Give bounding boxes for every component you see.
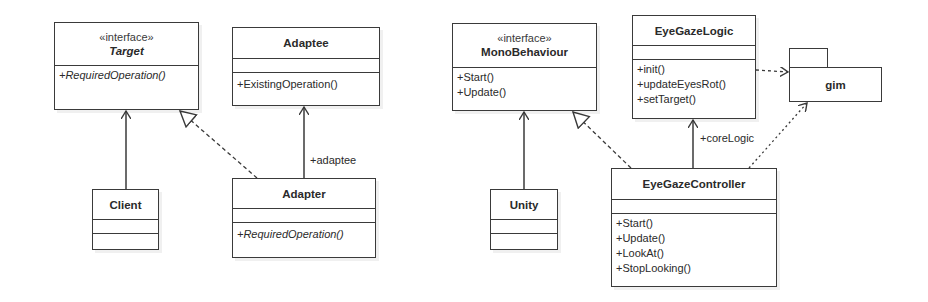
class-name: Target (55, 44, 198, 58)
operation: +Start() (457, 70, 592, 85)
operations-compartment: +ExistingOperation() (233, 73, 379, 94)
operation: +StopLooking() (616, 261, 772, 276)
stereotype-label: «interface» (55, 31, 198, 44)
class-unity[interactable]: Unity (490, 189, 558, 250)
class-eyegazelogic[interactable]: EyeGazeLogic +init() +updateEyesRot() +s… (632, 15, 756, 119)
attributes-compartment (491, 220, 557, 234)
class-header: EyeGazeController (612, 169, 776, 200)
class-header: «interface» MonoBehaviour (453, 24, 596, 68)
adapter-target-realization (180, 111, 257, 178)
uml-canvas: «interface» Target +RequiredOperation() … (0, 0, 928, 302)
operations-compartment: +Start() +Update() +LookAt() +StopLookin… (612, 214, 776, 278)
class-header: Client (93, 190, 158, 220)
class-monobehaviour[interactable]: «interface» MonoBehaviour +Start() +Upda… (452, 23, 597, 111)
operation: +Start() (616, 216, 772, 231)
class-name: Adapter (233, 187, 375, 201)
operation: +init() (637, 62, 751, 77)
class-name: Adaptee (233, 36, 379, 50)
class-header: Adaptee (233, 28, 379, 59)
attributes-compartment (633, 46, 755, 60)
class-name: MonoBehaviour (453, 45, 596, 59)
operation: +Update() (616, 231, 772, 246)
package-gim-tab (789, 48, 828, 68)
adaptee-role-label: +adaptee (310, 154, 356, 166)
operation: +setTarget() (637, 92, 751, 107)
stereotype-label: «interface» (453, 32, 596, 45)
class-adaptee[interactable]: Adaptee +ExistingOperation() (232, 27, 380, 106)
attributes-compartment (233, 59, 379, 73)
operation: +RequiredOperation() (237, 227, 371, 242)
class-eyegazecontroller[interactable]: EyeGazeController +Start() +Update() +Lo… (611, 168, 777, 287)
operations-compartment: +Start() +Update() (453, 68, 596, 102)
package-name: gim (825, 79, 845, 91)
class-name: Unity (491, 198, 557, 212)
logic-gim-dependency (756, 70, 788, 72)
attributes-compartment (233, 209, 375, 223)
controller-monobehaviour-realization (573, 112, 631, 168)
operation: +ExistingOperation() (237, 77, 375, 92)
attributes-compartment (93, 220, 158, 234)
operations-compartment: +RequiredOperation() (233, 223, 375, 244)
corelogic-role-label: +coreLogic (700, 132, 754, 144)
class-name: EyeGazeLogic (633, 24, 755, 38)
operation: +Update() (457, 85, 592, 100)
controller-gim-dependency (749, 103, 807, 168)
class-header: Adapter (233, 179, 375, 209)
operations-compartment: +RequiredOperation() (55, 66, 198, 85)
attributes-compartment (612, 200, 776, 214)
operations-compartment: +init() +updateEyesRot() +setTarget() (633, 60, 755, 109)
class-name: EyeGazeController (612, 177, 776, 191)
class-header: «interface» Target (55, 23, 198, 66)
operation: +updateEyesRot() (637, 77, 751, 92)
operation: +LookAt() (616, 246, 772, 261)
class-header: EyeGazeLogic (633, 16, 755, 46)
class-target[interactable]: «interface» Target +RequiredOperation() (54, 22, 199, 110)
class-header: Unity (491, 190, 557, 220)
operation: +RequiredOperation() (59, 68, 194, 83)
class-adapter[interactable]: Adapter +RequiredOperation() (232, 178, 376, 258)
package-gim[interactable]: gim (789, 67, 882, 102)
class-client[interactable]: Client (92, 189, 159, 250)
class-name: Client (93, 198, 158, 212)
